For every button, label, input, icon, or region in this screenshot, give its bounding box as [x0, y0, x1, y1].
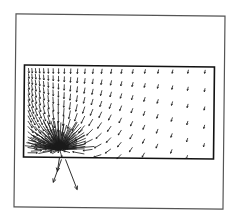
vector-field-plot	[0, 0, 238, 223]
exit-arrows	[53, 157, 78, 189]
vector-field-figure	[0, 0, 238, 223]
outer-frame	[14, 14, 225, 209]
vector-arrows	[25, 68, 206, 160]
